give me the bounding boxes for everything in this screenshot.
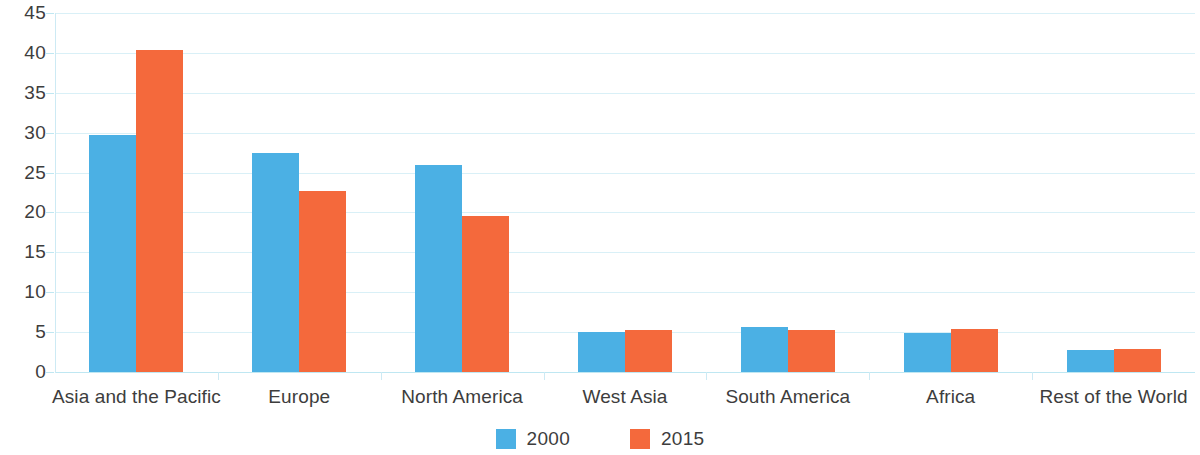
y-axis-tick-mark [46, 13, 54, 14]
y-axis-tick-mark [46, 372, 54, 373]
x-axis-category-label: Africa [926, 386, 975, 408]
x-axis-category-label: Rest of the World [1039, 386, 1187, 408]
bar-2015-south-america [788, 330, 835, 372]
x-axis-category-label: West Asia [582, 386, 667, 408]
bar-2015-rest-of-the-world [1114, 349, 1161, 372]
legend-label-2000: 2000 [527, 428, 570, 450]
bar-2000-rest-of-the-world [1067, 350, 1114, 372]
bar-2000-asia-and-the-pacific [89, 135, 136, 372]
y-axis-tick-label: 25 [24, 162, 46, 184]
y-axis-tick-label: 30 [24, 122, 46, 144]
y-axis-tick-mark [46, 252, 54, 253]
legend-label-2015: 2015 [661, 428, 704, 450]
y-axis-tick-label: 10 [24, 281, 46, 303]
bar-2000-europe [252, 153, 299, 372]
y-axis-tick-label: 5 [35, 321, 46, 343]
x-axis-category-label: North America [401, 386, 523, 408]
x-axis-category-separator [544, 372, 545, 380]
x-axis-category-label: Asia and the Pacific [52, 386, 221, 408]
x-axis-category-separator [869, 372, 870, 380]
y-axis-tick-label: 20 [24, 201, 46, 223]
bar-2015-africa [951, 329, 998, 372]
y-axis-tick-mark [46, 173, 54, 174]
bar-2015-europe [299, 191, 346, 372]
gridline [55, 372, 1195, 373]
y-axis-tick-label: 45 [24, 2, 46, 24]
legend-item-2000[interactable]: 2000 [496, 428, 570, 450]
legend-swatch-2000-icon [496, 429, 516, 449]
bar-2015-west-asia [625, 330, 672, 372]
y-axis-tick-mark [46, 53, 54, 54]
x-axis-category-separator [706, 372, 707, 380]
bar-2000-south-america [741, 327, 788, 372]
y-axis-tick-label: 40 [24, 42, 46, 64]
bars-layer [55, 13, 1195, 372]
bar-2000-africa [904, 333, 951, 372]
bar-2000-north-america [415, 165, 462, 372]
y-axis-tick-mark [46, 212, 54, 213]
x-axis-category-separator [381, 372, 382, 380]
y-axis-tick-mark [46, 292, 54, 293]
y-axis-tick-label: 15 [24, 241, 46, 263]
y-axis-tick-label: 35 [24, 82, 46, 104]
chart-legend: 2000 2015 [0, 428, 1200, 450]
y-axis: 454035302520151050 [0, 13, 46, 372]
x-axis-labels: Asia and the PacificEuropeNorth AmericaW… [55, 386, 1195, 414]
y-axis-tick-label: 0 [35, 361, 46, 383]
bar-2000-west-asia [578, 332, 625, 372]
x-axis-category-label: Europe [268, 386, 330, 408]
bar-2015-asia-and-the-pacific [136, 50, 183, 372]
legend-item-2015[interactable]: 2015 [630, 428, 704, 450]
bar-chart: 454035302520151050 Asia and the PacificE… [0, 0, 1200, 455]
x-axis-category-label: South America [725, 386, 850, 408]
x-axis-category-separator [1032, 372, 1033, 380]
y-axis-tick-mark [46, 133, 54, 134]
x-axis-category-separator [218, 372, 219, 380]
y-axis-tick-mark [46, 93, 54, 94]
y-axis-tick-mark [46, 332, 54, 333]
bar-2015-north-america [462, 216, 509, 372]
legend-swatch-2015-icon [630, 429, 650, 449]
